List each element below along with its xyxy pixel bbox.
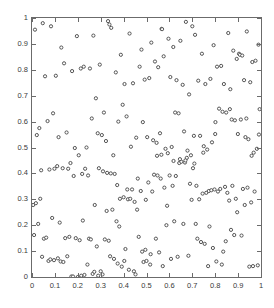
data-point <box>80 274 83 277</box>
data-point <box>106 171 109 174</box>
data-point <box>215 65 218 68</box>
data-point <box>170 145 173 148</box>
y-axis-tick-label: 0.1 <box>18 247 28 255</box>
data-point <box>41 22 44 25</box>
data-point <box>141 250 144 253</box>
y-tick-mark-right <box>257 18 261 19</box>
data-point <box>257 133 260 136</box>
data-point <box>203 242 206 245</box>
x-tick-mark-top <box>261 18 262 22</box>
data-point <box>150 41 153 44</box>
data-point <box>51 112 54 115</box>
data-point <box>227 31 230 34</box>
data-point <box>165 224 168 227</box>
data-point <box>247 138 250 141</box>
data-point <box>68 235 71 238</box>
data-point <box>193 33 196 36</box>
data-point <box>33 28 36 31</box>
data-point <box>152 173 155 176</box>
data-point <box>174 174 177 177</box>
data-point <box>136 208 139 211</box>
data-point <box>182 130 185 133</box>
data-point <box>116 183 119 186</box>
data-point <box>162 55 165 58</box>
data-point <box>254 59 257 62</box>
data-point <box>118 197 121 200</box>
data-point <box>223 185 226 188</box>
data-point <box>116 262 119 265</box>
data-point <box>184 159 187 162</box>
x-tick-mark-top <box>147 18 148 22</box>
data-point <box>169 75 172 78</box>
data-point <box>100 133 103 136</box>
data-point <box>175 79 178 82</box>
data-point <box>210 189 213 192</box>
data-point <box>160 153 163 156</box>
data-point <box>46 119 49 122</box>
y-axis-tick-label: 1 <box>24 14 28 22</box>
data-point <box>49 258 52 261</box>
data-point <box>210 141 213 144</box>
data-point <box>184 20 187 23</box>
data-point <box>96 132 99 135</box>
data-point <box>107 239 110 242</box>
data-point <box>235 57 238 60</box>
data-point <box>110 26 113 29</box>
data-point <box>77 154 80 157</box>
data-point <box>211 246 214 249</box>
data-point <box>221 110 224 113</box>
data-point <box>138 65 141 68</box>
data-point <box>214 121 217 124</box>
data-point <box>229 228 232 231</box>
data-point <box>198 134 201 137</box>
data-point <box>66 255 69 258</box>
data-point <box>121 103 124 106</box>
data-point <box>106 20 109 23</box>
data-point <box>148 76 151 79</box>
data-point <box>135 136 138 139</box>
x-tick-mark-top <box>192 18 193 22</box>
data-point <box>35 133 38 136</box>
data-point <box>242 79 245 82</box>
data-point <box>182 222 185 225</box>
data-point <box>125 115 128 118</box>
data-point <box>43 75 46 78</box>
y-axis-tick-label: 0.4 <box>18 170 28 178</box>
data-point <box>89 238 92 241</box>
x-tick-mark-top <box>101 18 102 22</box>
data-point <box>258 108 261 111</box>
data-point <box>239 118 242 121</box>
x-axis-tick-label: 0.6 <box>164 282 174 290</box>
data-point <box>224 240 227 243</box>
x-tick-mark <box>192 273 193 277</box>
x-axis-tick-label: 0.5 <box>141 282 151 290</box>
y-tick-mark-right <box>257 122 261 123</box>
data-point <box>86 263 89 266</box>
data-point <box>62 62 65 65</box>
x-axis-tick-label: 0.4 <box>118 282 128 290</box>
data-point <box>130 188 133 191</box>
data-point <box>213 188 216 191</box>
data-point <box>190 198 193 201</box>
data-point <box>201 192 204 195</box>
y-tick-mark <box>32 173 36 174</box>
data-point <box>127 268 130 271</box>
data-point <box>194 222 197 225</box>
data-point <box>241 187 244 190</box>
data-point <box>252 151 255 154</box>
data-point <box>229 88 232 91</box>
data-point <box>157 66 160 69</box>
data-point <box>179 39 182 42</box>
data-point <box>151 190 154 193</box>
data-point <box>131 82 134 85</box>
data-point <box>202 151 205 154</box>
x-tick-mark <box>101 273 102 277</box>
data-point <box>168 174 171 177</box>
data-point <box>71 275 74 277</box>
data-point <box>56 165 59 168</box>
data-point <box>97 167 100 170</box>
data-point <box>187 93 190 96</box>
data-point <box>39 197 42 200</box>
data-point <box>164 147 167 150</box>
data-point <box>173 220 176 223</box>
